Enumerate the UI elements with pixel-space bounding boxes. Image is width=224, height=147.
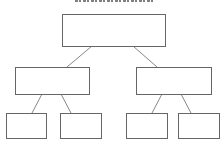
- node-right-left: [126, 113, 168, 139]
- node-left-left: [6, 113, 47, 139]
- edge-left-leftright: [61, 94, 71, 113]
- edge-root-right: [133, 46, 157, 67]
- edge-root-left: [67, 46, 92, 67]
- edge-right-rightright: [181, 94, 191, 113]
- edge-left-leftleft: [32, 94, 42, 113]
- node-right-right: [178, 113, 220, 139]
- edge-right-rightleft: [152, 94, 162, 113]
- node-root: [62, 14, 166, 47]
- node-right: [136, 67, 212, 95]
- node-left-right: [60, 113, 102, 139]
- node-left: [15, 67, 90, 95]
